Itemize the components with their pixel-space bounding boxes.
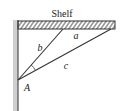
shelf-title: Shelf bbox=[51, 8, 73, 19]
angle-arc bbox=[31, 65, 35, 70]
wall bbox=[13, 20, 18, 111]
label-b: b bbox=[38, 42, 43, 53]
brace-c bbox=[18, 29, 111, 80]
label-c: c bbox=[64, 60, 69, 71]
shelf bbox=[18, 21, 115, 29]
shelf-diagram: Shelf a b c A bbox=[0, 0, 125, 111]
label-a: a bbox=[74, 30, 79, 41]
brace-b bbox=[18, 29, 63, 80]
label-vertex-A: A bbox=[23, 82, 31, 93]
